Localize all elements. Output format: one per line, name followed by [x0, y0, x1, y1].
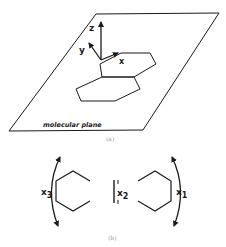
molecular-plane [9, 13, 219, 131]
x2-label: x2 [117, 188, 128, 201]
left-ring [56, 171, 90, 211]
caption-a: (a) [106, 135, 114, 142]
z-axis-label: z [89, 23, 94, 33]
figure-svg: z y x molecular plane (a) x3 x2 x1 (b) [0, 0, 226, 247]
panel-b: x3 x2 x1 (b) [41, 157, 188, 241]
figure: z y x molecular plane (a) x3 x2 x1 (b) [0, 0, 226, 247]
y-axis-label: y [79, 45, 85, 55]
plane-label: molecular plane [43, 121, 102, 129]
lower-hexagon [76, 77, 140, 101]
x3-label: x3 [41, 187, 52, 200]
caption-b: (b) [108, 234, 117, 241]
x1-label: x1 [176, 187, 188, 200]
right-ring [138, 171, 171, 211]
y-axis-arrow [89, 43, 101, 60]
x-axis-label: x [119, 57, 125, 66]
panel-a: z y x molecular plane (a) [9, 13, 219, 142]
